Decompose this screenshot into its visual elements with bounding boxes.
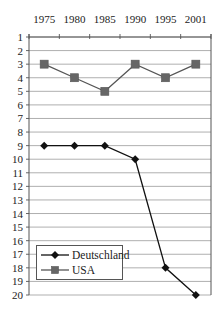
square-marker-icon	[71, 74, 79, 82]
legend: Deutschland USA	[37, 246, 130, 280]
y-tick-label: 10	[12, 153, 24, 165]
x-tick-label: 1990	[124, 13, 147, 25]
y-tick-label: 13	[12, 194, 24, 206]
diamond-marker-icon	[71, 142, 79, 150]
y-tick-label: 20	[12, 289, 24, 301]
y-axis-labels: 1234567891011121314151617181920	[12, 31, 24, 301]
y-tick-label: 7	[18, 112, 24, 124]
diamond-marker-icon	[131, 155, 139, 163]
x-tick-label: 1975	[33, 13, 56, 25]
y-tick-label: 17	[12, 248, 24, 260]
y-tick-label: 12	[12, 180, 23, 192]
x-tick-label: 1985	[94, 13, 117, 25]
square-marker-icon	[131, 60, 139, 68]
x-tick-label: 2001	[185, 13, 207, 25]
y-tick-label: 3	[18, 58, 24, 70]
legend-label-usa: USA	[72, 264, 96, 276]
square-marker-icon	[162, 74, 170, 82]
y-tick-label: 9	[18, 140, 24, 152]
square-marker-icon	[52, 267, 59, 274]
y-tick-label: 5	[18, 85, 24, 97]
y-tick-label: 18	[12, 262, 24, 274]
y-tick-label: 15	[12, 221, 24, 233]
x-tick-label: 1980	[64, 13, 87, 25]
y-tick-label: 19	[12, 275, 24, 287]
y-tick-label: 8	[18, 126, 24, 138]
square-marker-icon	[40, 60, 48, 68]
diamond-marker-icon	[101, 142, 109, 150]
x-axis-labels: 197519801985199019952001	[33, 13, 207, 25]
y-tick-label: 1	[18, 31, 24, 43]
square-marker-icon	[101, 87, 109, 95]
line-chart: 1234567891011121314151617181920 19751980…	[0, 0, 224, 320]
y-tick-label: 2	[18, 45, 24, 57]
diamond-marker-icon	[40, 142, 48, 150]
y-tick-label: 4	[18, 72, 24, 84]
y-tick-label: 6	[18, 99, 24, 111]
square-marker-icon	[192, 60, 200, 68]
y-tick-label: 16	[12, 235, 24, 247]
y-tick-label: 11	[12, 167, 23, 179]
legend-label-deutschland: Deutschland	[72, 249, 130, 261]
y-tick-label: 14	[12, 208, 24, 220]
x-tick-label: 1995	[155, 13, 178, 25]
